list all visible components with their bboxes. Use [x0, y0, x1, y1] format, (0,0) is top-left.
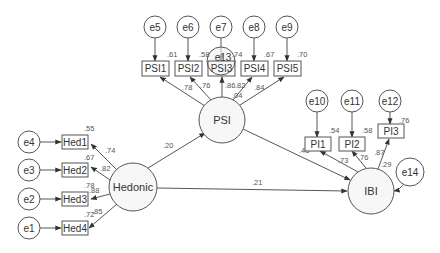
- error-e7: e7: [210, 16, 232, 38]
- svg-text:e10: e10: [309, 96, 326, 107]
- error-e2: e2: [18, 188, 40, 210]
- hedonic-error-edges: [40, 142, 61, 228]
- r2-psi4: .67: [264, 50, 274, 59]
- r2-hed2: .67: [84, 153, 94, 162]
- loading-pi1: .73: [338, 156, 348, 165]
- svg-text:e2: e2: [23, 194, 35, 205]
- loading-hed4: .85: [92, 207, 102, 216]
- error-e12: e12: [379, 90, 401, 112]
- svg-text:IBI: IBI: [364, 185, 377, 197]
- indicator-hed3: Hed3: [62, 192, 88, 206]
- r2-pi2: .58: [362, 126, 372, 135]
- error-e8: e8: [243, 16, 265, 38]
- loading-psi2: .76: [200, 81, 210, 90]
- svg-text:e4: e4: [23, 137, 35, 148]
- indicator-hed4: Hed4: [62, 221, 88, 235]
- indicator-pi3: PI3: [378, 124, 404, 138]
- indicator-hed2: Hed2: [62, 163, 88, 177]
- svg-text:e5: e5: [149, 22, 161, 33]
- svg-text:e11: e11: [344, 96, 360, 107]
- r2-psi2: .58: [199, 50, 209, 59]
- svg-text:e8: e8: [248, 22, 260, 33]
- error-e1: e1: [18, 217, 40, 239]
- loading-hed3: .88: [89, 186, 99, 195]
- sem-path-diagram: e5 e6 e7 e8 e9 e13 PSI1 PSI2 PSI3 PSI4 P…: [0, 0, 440, 253]
- svg-text:PSI1: PSI1: [145, 63, 167, 74]
- loading-pi3: .87: [374, 148, 384, 157]
- svg-text:PSI3: PSI3: [211, 63, 233, 74]
- svg-text:e7: e7: [215, 22, 227, 33]
- indicator-psi5: PSI5: [274, 61, 301, 76]
- indicator-hed1: Hed1: [62, 135, 88, 149]
- path-hedonic-ibi: .21: [252, 178, 262, 187]
- r2-pi1: .54: [329, 126, 339, 135]
- r2-ibi-latent: .29: [381, 160, 391, 169]
- loading-psi4: .82: [235, 81, 245, 90]
- svg-text:Hed3: Hed3: [63, 194, 87, 205]
- loading-hed1: .74: [105, 146, 115, 155]
- indicator-psi1: PSI1: [142, 61, 169, 76]
- svg-text:e3: e3: [23, 165, 35, 176]
- latent-psi: PSI: [199, 97, 245, 143]
- error-e6: e6: [177, 16, 199, 38]
- r2-pi3: .76: [399, 116, 409, 125]
- svg-text:e14: e14: [402, 167, 419, 178]
- r2-psi-latent: .04: [232, 91, 242, 100]
- error-e10: e10: [306, 90, 328, 112]
- error-e11: e11: [341, 90, 363, 112]
- svg-text:PSI5: PSI5: [277, 63, 299, 74]
- indicator-psi2: PSI2: [175, 61, 202, 76]
- error-e5: e5: [144, 16, 166, 38]
- svg-text:PSI4: PSI4: [244, 63, 266, 74]
- svg-text:Hedonic: Hedonic: [113, 181, 154, 193]
- latent-ibi: IBI: [348, 168, 394, 214]
- loading-psi5: .84: [254, 83, 264, 92]
- latent-hedonic: Hedonic: [109, 163, 157, 211]
- svg-text:PI1: PI1: [310, 139, 325, 150]
- loading-pi2: .76: [358, 153, 368, 162]
- r2-hed1: .55: [84, 124, 94, 133]
- svg-text:Hed4: Hed4: [63, 223, 87, 234]
- svg-text:e12: e12: [382, 96, 399, 107]
- svg-text:Hed2: Hed2: [63, 165, 87, 176]
- r2-psi5: .70: [297, 50, 307, 59]
- error-e9: e9: [276, 16, 298, 38]
- loading-psi1: .78: [182, 83, 192, 92]
- svg-text:PI3: PI3: [383, 126, 398, 137]
- svg-text:e6: e6: [182, 22, 194, 33]
- r2-psi1: .61: [167, 50, 177, 59]
- indicator-psi4: PSI4: [241, 61, 268, 76]
- indicator-psi3: PSI3: [208, 61, 235, 76]
- error-e14: e14: [396, 158, 424, 186]
- svg-text:PI2: PI2: [344, 139, 359, 150]
- error-e4: e4: [18, 131, 40, 153]
- indicator-pi2: PI2: [339, 137, 365, 151]
- svg-text:e1: e1: [23, 223, 35, 234]
- svg-text:Hed1: Hed1: [63, 137, 87, 148]
- svg-text:PSI: PSI: [213, 114, 231, 126]
- svg-text:e9: e9: [281, 22, 293, 33]
- svg-text:PSI2: PSI2: [178, 63, 200, 74]
- error-e3: e3: [18, 159, 40, 181]
- indicator-pi1: PI1: [305, 137, 331, 151]
- r2-psi3: .74: [232, 50, 242, 59]
- loading-hed2: .82: [100, 164, 110, 173]
- path-hedonic-psi: .20: [163, 141, 173, 150]
- loading-psi3: .86: [225, 81, 235, 90]
